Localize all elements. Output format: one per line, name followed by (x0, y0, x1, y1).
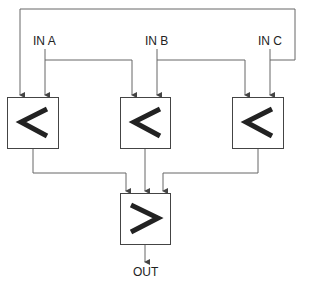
comparator-box-1 (8, 98, 59, 149)
output-box (121, 194, 171, 245)
wire-cmp1-out (33, 148, 126, 191)
wire-in-b-branch (157, 60, 245, 95)
wire-cmp3-out (163, 148, 258, 191)
comparator-box-2 (121, 98, 171, 149)
input-label-a: IN A (33, 34, 56, 48)
input-label-c: IN C (258, 34, 282, 48)
input-label-b: IN B (145, 34, 168, 48)
output-label: OUT (133, 265, 158, 279)
comparator-box-3 (233, 98, 284, 149)
wire-in-a-branch (45, 60, 132, 95)
